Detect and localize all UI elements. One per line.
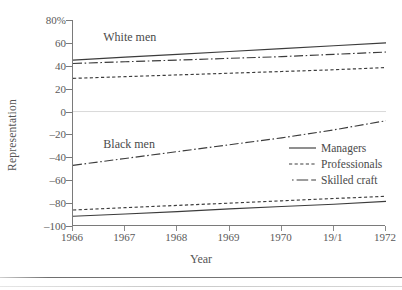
y-axis-tick-label: –40: [22, 151, 66, 163]
group-annotation-white-men: White men: [103, 30, 156, 45]
x-axis-tick-mark: [333, 226, 334, 231]
series-line-black-men-professionals: [73, 196, 386, 210]
series-line-white-men-managers: [73, 43, 386, 60]
x-axis-tick-mark: [281, 226, 282, 231]
x-axis-title: Year: [0, 252, 402, 267]
series-canvas: [73, 20, 386, 226]
y-axis-tick-label: 20: [22, 83, 66, 95]
y-axis-tick-label: –80: [22, 197, 66, 209]
legend-item: Managers: [288, 140, 382, 156]
x-axis-tick-label: 1967: [113, 231, 135, 243]
y-axis-tick-label: 80%: [22, 14, 66, 26]
x-axis-tick-label: 1970: [270, 231, 292, 243]
legend-swatch-solid: [288, 143, 318, 153]
x-axis-tick-label: 1968: [165, 231, 187, 243]
y-axis-title: Representation: [2, 50, 22, 220]
x-axis-tick-mark: [176, 226, 177, 231]
plot-area: [72, 20, 385, 226]
y-axis-tick-label: 0: [22, 106, 66, 118]
legend-item-label: Managers: [321, 140, 366, 156]
x-axis-tick-label: 19/1: [323, 231, 343, 243]
x-axis-tick-mark: [72, 226, 73, 231]
y-axis-title-label: Representation: [6, 99, 18, 171]
legend-swatch-dashdot: [288, 175, 318, 185]
y-axis-tick-label: 60: [22, 37, 66, 49]
x-axis-tick-label: 1966: [61, 231, 83, 243]
y-axis-tick-label: –60: [22, 174, 66, 186]
x-axis-tick-mark: [229, 226, 230, 231]
x-axis-tick-mark: [385, 226, 386, 231]
x-axis-tick-label: 1972: [374, 231, 396, 243]
page-rule-primary: [0, 277, 402, 278]
y-axis-tick-label: –100: [22, 220, 66, 232]
legend-swatch-dashed: [288, 159, 318, 169]
y-axis-tick-label: 40: [22, 60, 66, 72]
legend-item: Professionals: [288, 156, 382, 172]
x-axis-title-label: Year: [190, 252, 212, 266]
x-axis-tick-label: 1969: [218, 231, 240, 243]
chart-figure: Representation 80%6040200–20–40–60–80–10…: [0, 0, 402, 290]
x-axis-tick-mark: [124, 226, 125, 231]
legend-item-label: Professionals: [321, 156, 382, 172]
legend-item: Skilled craft: [288, 172, 382, 188]
series-line-white-men-professionals: [73, 67, 386, 78]
legend-item-label: Skilled craft: [321, 172, 378, 188]
legend: ManagersProfessionalsSkilled craft: [288, 140, 382, 188]
page-rule-secondary: [0, 286, 402, 287]
y-axis-tick-label: –20: [22, 128, 66, 140]
group-annotation-black-men: Black men: [103, 137, 155, 152]
series-line-black-men-managers: [73, 201, 386, 216]
